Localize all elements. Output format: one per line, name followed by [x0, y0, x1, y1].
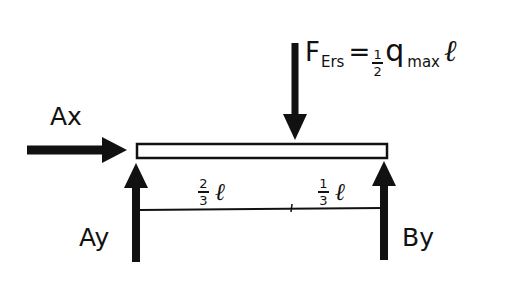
by-label: By	[402, 225, 434, 250]
ay-label: Ay	[79, 225, 109, 250]
ax-label: Ax	[50, 104, 82, 129]
by-force-arrow	[372, 161, 396, 260]
dimension-right-fraction: 1 3	[318, 177, 329, 207]
length-symbol: ℓ	[215, 180, 225, 204]
force-subscript: Ers	[321, 55, 344, 70]
length-symbol: ℓ	[444, 36, 457, 66]
fraction-numerator: 1	[319, 177, 327, 190]
ay-force-arrow	[124, 163, 148, 262]
ax-force-arrow	[27, 137, 127, 163]
fraction-numerator: 1	[374, 48, 382, 61]
coefficient-fraction: 1 2	[372, 48, 383, 78]
dimension-right-label: 1 3 ℓ	[318, 177, 345, 207]
fraction-numerator: 2	[199, 177, 207, 190]
load-symbol: q	[385, 36, 404, 66]
fraction-denominator: 3	[199, 194, 207, 207]
dimension-left-fraction: 2 3	[198, 177, 209, 207]
equals-sign: =	[348, 39, 370, 65]
fraction-denominator: 2	[374, 65, 382, 78]
dimension-left-label: 2 3 ℓ	[198, 177, 225, 207]
beam	[137, 144, 387, 158]
resultant-force-arrow	[283, 43, 307, 140]
dimension-tick	[291, 204, 292, 212]
force-symbol: F	[305, 39, 320, 65]
dimension-line	[140, 208, 383, 210]
resultant-force-label: F Ers = 1 2 q max ℓ	[305, 36, 456, 80]
load-subscript: max	[407, 55, 440, 70]
fraction-denominator: 3	[319, 194, 327, 207]
length-symbol: ℓ	[335, 180, 345, 204]
